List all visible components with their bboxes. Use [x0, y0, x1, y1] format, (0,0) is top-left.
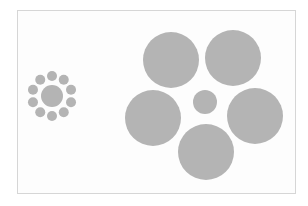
- left-target-circle: [41, 85, 63, 107]
- small-surround-circle: [66, 85, 76, 95]
- large-surround-circle: [227, 88, 283, 144]
- small-surround-circle: [47, 71, 57, 81]
- small-surround-circle: [35, 107, 45, 117]
- small-surround-circle: [47, 111, 57, 121]
- small-surround-circle: [28, 85, 38, 95]
- small-surround-circle: [35, 75, 45, 85]
- right-target-circle: [193, 90, 217, 114]
- small-surround-circle: [66, 97, 76, 107]
- small-surround-circle: [59, 107, 69, 117]
- ebbinghaus-illusion-figure: [0, 0, 308, 206]
- small-surround-circle: [59, 75, 69, 85]
- large-surround-circle: [205, 30, 261, 86]
- large-surround-circle: [178, 124, 234, 180]
- large-surround-circle: [125, 90, 181, 146]
- large-surround-circle: [143, 32, 199, 88]
- small-surround-circle: [28, 97, 38, 107]
